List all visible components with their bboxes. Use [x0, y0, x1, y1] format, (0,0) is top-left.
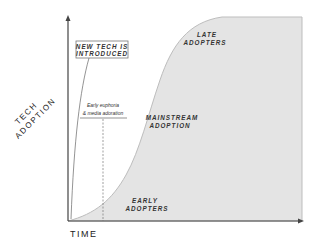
mainstream-label-line1: MAINSTREAM — [146, 114, 199, 121]
late-adopters-label-line2: ADOPTERS — [183, 39, 227, 46]
intro-connector-line — [71, 58, 89, 219]
intro-label-line2: INTRODUCED — [76, 50, 128, 57]
mainstream-label-line2: ADOPTION — [148, 122, 190, 129]
early-adopters-label-line2: ADOPTERS — [125, 205, 169, 212]
y-axis-title: TECH ADOPTION — [6, 89, 57, 140]
y-axis-arrow-icon — [66, 15, 71, 21]
euphoria-label-line2: & media adoration — [83, 110, 124, 116]
intro-label-line1: NEW TECH IS — [76, 43, 128, 50]
late-adopters-label-line1: LATE — [197, 31, 217, 38]
x-axis-title: TIME — [70, 229, 98, 239]
euphoria-label-line1: Early euphoria — [87, 102, 119, 108]
early-adopters-label-line1: EARLY — [132, 197, 158, 204]
adoption-diagram: NEW TECH IS INTRODUCED Early euphoria & … — [0, 0, 322, 243]
